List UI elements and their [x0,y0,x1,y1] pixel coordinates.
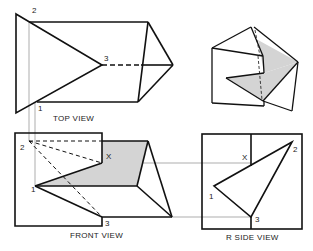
top-view [16,14,173,113]
front-label-3: 3 [105,219,110,228]
side-label-1: 1 [209,192,214,201]
side-label-3: 3 [255,215,260,224]
front-label-x: X [106,152,112,161]
front-view [15,133,172,226]
side-label-2: 2 [293,145,298,154]
top-label-1: 1 [38,104,43,113]
front-view-caption: FRONT VIEW [70,231,123,240]
side-view-caption: R SIDE VIEW [226,233,279,242]
front-label-1: 1 [31,185,36,194]
top-label-2: 2 [32,6,37,15]
right-side-view [202,134,302,229]
side-label-x: X [242,153,248,162]
projection-diagram: 2 3 1 TOP VIEW [0,0,313,251]
pictorial-view [212,27,298,111]
top-label-3: 3 [104,54,109,63]
top-view-caption: TOP VIEW [53,114,94,123]
front-label-2: 2 [20,143,25,152]
